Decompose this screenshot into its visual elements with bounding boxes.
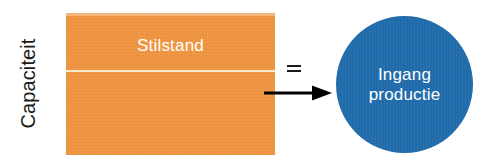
equals-sign xyxy=(287,62,301,74)
flow-arrow-icon xyxy=(262,82,334,104)
axis-label-capaciteit: Capaciteit xyxy=(0,0,56,167)
diagram-canvas: Capaciteit Stilstand Ingang productie xyxy=(0,0,500,167)
output-node-label: Ingang productie xyxy=(369,65,441,105)
output-node-label-line1: Ingang xyxy=(369,65,441,85)
capacity-segment-label-stilstand: Stilstand xyxy=(66,36,275,56)
equals-sign-bar-bottom xyxy=(287,70,301,72)
output-node-label-line2: productie xyxy=(369,85,441,105)
output-node-ingang-productie: Ingang productie xyxy=(336,16,473,153)
capacity-divider xyxy=(66,70,275,72)
equals-sign-bar-top xyxy=(287,65,301,67)
capacity-block xyxy=(66,13,275,155)
